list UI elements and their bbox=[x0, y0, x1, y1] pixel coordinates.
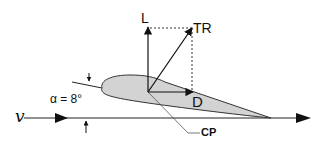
lift-label: L bbox=[141, 11, 149, 25]
drag-label: D bbox=[192, 94, 203, 109]
chord-line bbox=[72, 82, 102, 88]
velocity-label: v bbox=[15, 108, 25, 125]
total-reaction-label: TR bbox=[193, 21, 212, 35]
angle-of-attack-label: α = 8° bbox=[50, 93, 82, 105]
freestream-end-arrowhead-icon bbox=[296, 113, 311, 123]
total-reaction-vector bbox=[148, 28, 192, 92]
airfoil-shape bbox=[102, 75, 271, 118]
velocity-arrowhead-icon bbox=[55, 113, 68, 123]
center-of-pressure-label: CP bbox=[201, 127, 216, 138]
airfoil-diagram bbox=[0, 0, 326, 145]
